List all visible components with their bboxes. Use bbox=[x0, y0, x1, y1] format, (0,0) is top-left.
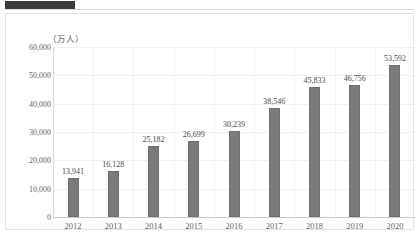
category-separator bbox=[294, 47, 295, 217]
bar-value-label: 25,182 bbox=[132, 135, 176, 144]
category-separator bbox=[335, 47, 336, 217]
gridline bbox=[53, 47, 415, 48]
y-axis-tick: 60,000 bbox=[7, 43, 51, 52]
category-separator bbox=[375, 47, 376, 217]
y-axis-tick: 0 bbox=[7, 213, 51, 222]
chart-container: （万人） 010,00020,00030,00040,00050,00060,0… bbox=[5, 13, 414, 230]
header-divider bbox=[5, 9, 414, 10]
y-axis-tick-labels: 010,00020,00030,00040,00050,00060,000 bbox=[6, 47, 51, 217]
y-axis-tick: 30,000 bbox=[7, 128, 51, 137]
x-axis-tick: 2015 bbox=[172, 221, 216, 231]
plot-area bbox=[53, 47, 415, 217]
chart-screenshot: （万人） 010,00020,00030,00040,00050,00060,0… bbox=[0, 0, 419, 232]
x-axis-tick: 2019 bbox=[333, 221, 377, 231]
bar bbox=[229, 131, 240, 217]
y-axis-tick: 20,000 bbox=[7, 156, 51, 165]
category-separator bbox=[254, 47, 255, 217]
bar bbox=[68, 178, 79, 217]
bar bbox=[188, 141, 199, 217]
bar bbox=[349, 85, 360, 217]
bar-value-label: 53,592 bbox=[373, 54, 417, 63]
bar bbox=[269, 108, 280, 217]
x-axis-tick: 2014 bbox=[132, 221, 176, 231]
x-axis-tick: 2018 bbox=[292, 221, 336, 231]
bar-value-label: 16,128 bbox=[91, 160, 135, 169]
y-axis-unit-label: （万人） bbox=[48, 32, 84, 44]
bar-value-label: 46,756 bbox=[333, 74, 377, 83]
bar-value-label: 45,833 bbox=[292, 76, 336, 85]
category-separator bbox=[133, 47, 134, 217]
y-axis-tick: 50,000 bbox=[7, 71, 51, 80]
x-axis-tick: 2016 bbox=[212, 221, 256, 231]
y-axis-tick: 10,000 bbox=[7, 184, 51, 193]
bar-value-label: 38,546 bbox=[252, 97, 296, 106]
x-axis-tick: 2012 bbox=[51, 221, 95, 231]
bar bbox=[309, 87, 320, 217]
redacted-header-block bbox=[5, 1, 75, 9]
gridline bbox=[53, 104, 415, 105]
bar-value-label: 30,239 bbox=[212, 120, 256, 129]
y-axis-tick: 40,000 bbox=[7, 99, 51, 108]
bar bbox=[108, 171, 119, 217]
x-axis-tick: 2020 bbox=[373, 221, 417, 231]
x-axis-tick: 2013 bbox=[91, 221, 135, 231]
bar bbox=[389, 65, 400, 217]
x-axis-line bbox=[53, 217, 415, 218]
x-axis-tick: 2017 bbox=[252, 221, 296, 231]
bar-value-label: 26,699 bbox=[172, 130, 216, 139]
category-separator bbox=[93, 47, 94, 217]
bar bbox=[148, 146, 159, 217]
bar-value-label: 13,941 bbox=[51, 167, 95, 176]
